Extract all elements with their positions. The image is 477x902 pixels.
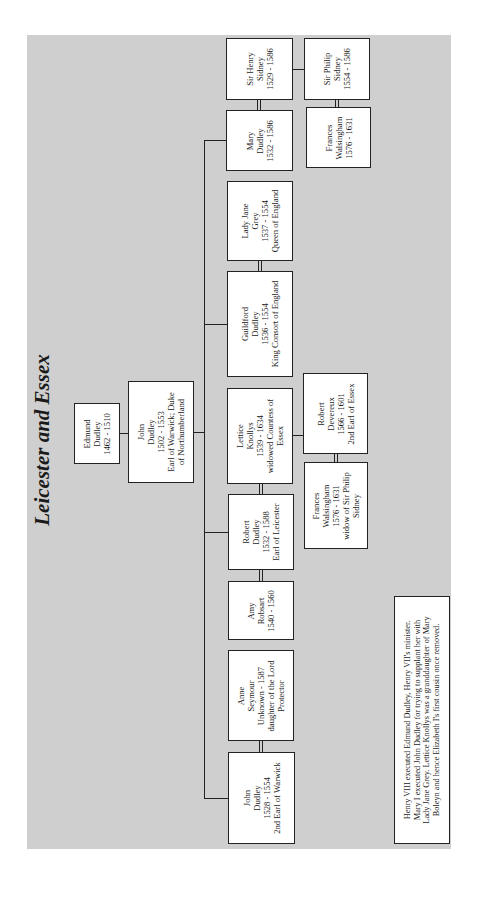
note-line: Lady Jane Grey. Lettice Knollys was a gr… (422, 616, 432, 823)
person-dates: 1502 - 1553 (156, 392, 166, 472)
person-surname: Dudley (92, 413, 102, 455)
person-title: Queen of England (270, 190, 280, 253)
person-surname: Devereux (326, 383, 336, 444)
person-title: widow of Sir Philip (341, 472, 351, 540)
person-dates: 1529 - 1586 (265, 48, 275, 90)
person-surname: Dudley (255, 120, 265, 162)
person-name: Robert (241, 503, 251, 560)
person-surname: Knollys (245, 399, 255, 473)
note-line: Mary I executed John Dudley for trying t… (412, 616, 422, 823)
person-sir-philip-sidney: Sir Philip Sidney 1554 - 1586 (304, 38, 370, 100)
marriage-henry-mary (257, 100, 261, 110)
person-dates: 1537 - 1554 (260, 190, 270, 253)
person-name: Edmund (82, 413, 92, 455)
connector-lettice-devereux (293, 435, 303, 436)
person-name: Lady Jane (240, 190, 250, 253)
person-title-cont: Essex (275, 399, 285, 473)
person-name: Sir Henry (245, 48, 255, 90)
person-john-dudley-1502: John Dudley 1502 - 1553 Earl of Warwick;… (128, 381, 194, 483)
person-sir-henry-sidney: Sir Henry Sidney 1529 - 1586 (226, 38, 293, 100)
person-anne-seymour: Anne Seymour Unknown - 1587 daughter of … (228, 650, 294, 741)
person-dates: 1532 - 1586 (265, 120, 275, 162)
person-title: daughter of the Lord (266, 660, 276, 731)
connector-trunk-robert (204, 532, 228, 533)
person-title-cont: Protector (276, 660, 286, 731)
person-surname: Dudley (250, 281, 260, 368)
person-title-cont: Sidney (351, 472, 361, 540)
person-name: Sir Philip (322, 48, 332, 90)
person-name: Amy (246, 590, 256, 632)
person-robert-dudley: Robert Dudley 1532 - 1588 Earl of Leices… (228, 494, 294, 570)
person-surname: Sidney (255, 48, 265, 90)
connector-trunk-guildford (204, 324, 227, 325)
person-title: widowed Countess of (265, 399, 275, 473)
person-surname: Dudley (146, 392, 156, 472)
person-robert-devereux: Robert Devereux 1566 - 1601 2nd Earl of … (303, 373, 368, 454)
person-dates: 1554 - 1586 (342, 48, 352, 90)
person-title: King Consort of England (270, 281, 280, 368)
person-name: John (136, 392, 146, 472)
person-lady-jane-grey: Lady Jane Grey 1537 - 1554 Queen of Engl… (227, 181, 293, 261)
person-amy-robsart: Amy Robsart 1540 - 1560 (228, 581, 294, 640)
person-dates: 1576 - 1631 (331, 472, 341, 540)
person-name: Robert (316, 383, 326, 444)
marriage-devereux-frances (334, 454, 338, 462)
person-dates: 1540 - 1560 (266, 590, 276, 632)
marriage-jane-guildford (258, 261, 262, 271)
note-line: Henry VIII executed Edmund Dudley, Henry… (403, 616, 413, 823)
person-title: 2nd Earl of Warwick (272, 762, 282, 833)
children-trunk (204, 140, 205, 799)
person-dates: 1528 - 1554 (262, 762, 272, 833)
person-surname: Dudley (252, 762, 262, 833)
connector-edmund-john (120, 433, 128, 434)
person-guildford-dudley: Guildford Dudley 1536 - 1554 King Consor… (227, 271, 293, 377)
connector-trunk-mary (204, 140, 227, 141)
person-frances-walsingham-2: Frances Walsingham 1576 - 1631 widow of … (304, 462, 368, 549)
person-dates: 1576 - 1631 (344, 116, 354, 159)
historical-note: Henry VIII executed Edmund Dudley, Henry… (394, 596, 450, 844)
person-name: Anne (236, 660, 246, 731)
person-name: Lettice (235, 399, 245, 473)
connector-henry-philip (293, 69, 304, 70)
person-surname: Robsart (256, 590, 266, 632)
person-title-cont: of Northumberland (176, 392, 186, 472)
person-dates: 1532 - 1588 (261, 503, 271, 560)
person-dates: 1566 - 1601 (336, 383, 346, 444)
person-mary-dudley: Mary Dudley 1532 - 1586 (226, 110, 293, 171)
person-name: John (242, 762, 252, 833)
person-surname: Walsingham (334, 116, 344, 159)
person-name: Guildford (240, 281, 250, 368)
person-name: Mary (245, 120, 255, 162)
person-dates: 1462 - 1510 (102, 413, 112, 455)
person-surname: Sidney (332, 48, 342, 90)
person-dates: 1536 - 1554 (260, 281, 270, 368)
connector-trunk-john-1528 (204, 798, 228, 799)
person-surname: Seymour (246, 660, 256, 731)
person-name: Frances (311, 472, 321, 540)
person-frances-walsingham-1: Frances Walsingham 1576 - 1631 (306, 107, 371, 168)
person-surname: Grey (250, 190, 260, 253)
marriage-lettice-robert (259, 484, 263, 494)
person-dates: Unknown - 1587 (256, 660, 266, 731)
marriage-anne-john (259, 741, 263, 752)
person-surname: Dudley (251, 503, 261, 560)
person-edmund-dudley: Edmund Dudley 1462 - 1510 (74, 403, 120, 464)
marriage-robert-amy (259, 570, 263, 581)
person-john-dudley-1528: John Dudley 1528 - 1554 2nd Earl of Warw… (228, 752, 295, 844)
marriage-philip-frances (335, 100, 339, 107)
person-surname: Walsingham (321, 472, 331, 540)
person-title: 2nd Earl of Essex (346, 383, 356, 444)
person-name: Frances (324, 116, 334, 159)
person-title: Earl of Warwick; Duke (166, 392, 176, 472)
note-line: Boleyn and hence Elizabeth I's first cou… (432, 616, 442, 823)
diagram-title: Leicester and Essex (30, 354, 55, 525)
person-lettice-knollys: Lettice Knollys 1539 - 1634 widowed Coun… (227, 388, 293, 484)
person-title: Earl of Leicester (271, 503, 281, 560)
person-dates: 1539 - 1634 (255, 399, 265, 473)
